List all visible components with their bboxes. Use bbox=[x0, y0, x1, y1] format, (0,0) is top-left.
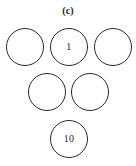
node-label: 10 bbox=[64, 134, 75, 144]
node-middle-left bbox=[28, 73, 66, 111]
node-bottom: 10 bbox=[50, 120, 88, 158]
figure-panel: (c) 110 bbox=[0, 0, 136, 166]
node-top-center: 1 bbox=[50, 28, 88, 66]
figure-caption-label: (c) bbox=[0, 5, 136, 16]
node-top-right bbox=[94, 28, 132, 66]
node-label: 1 bbox=[66, 42, 71, 52]
node-top-left bbox=[6, 28, 44, 66]
node-middle-right bbox=[71, 73, 109, 111]
